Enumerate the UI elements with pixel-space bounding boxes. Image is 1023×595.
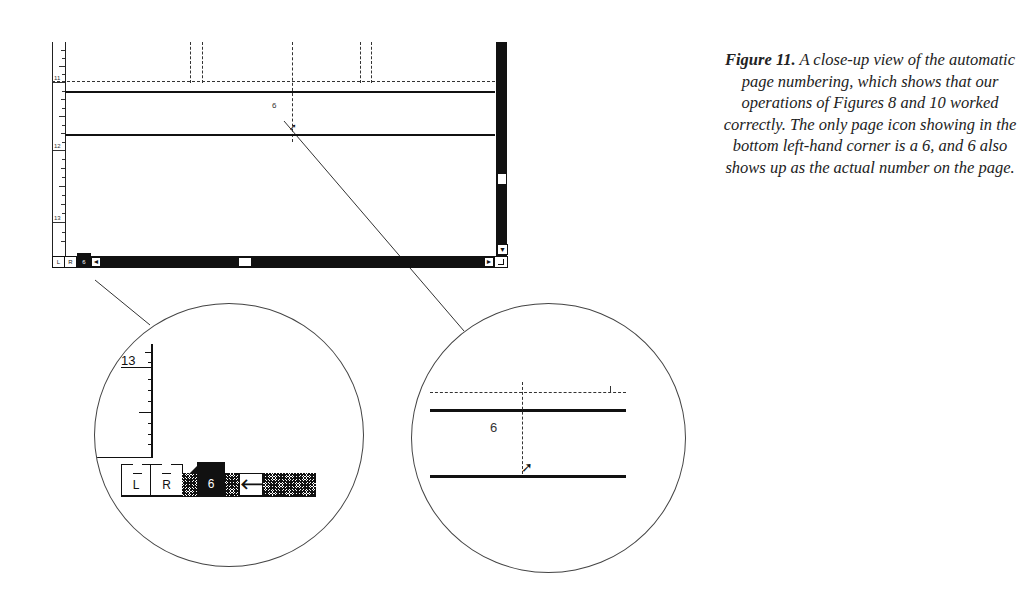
ruler-label-13-magnified: 13	[121, 354, 153, 368]
ruler-label-12: 12	[54, 143, 61, 149]
document-window: 11 12 13 6 ➚	[52, 42, 508, 268]
header-rule-top	[65, 91, 495, 93]
bottom-bar: L R 6 ◄ ►	[52, 256, 508, 268]
vertical-scrollbar[interactable]: ▼	[496, 42, 507, 256]
vertical-scroll-thumb[interactable]	[498, 174, 506, 184]
scroll-left-arrow-icon[interactable]: ◄	[91, 257, 101, 267]
magnifier-page-icons: 13 L R 6 🡐	[94, 303, 364, 567]
margin-guide	[52, 81, 495, 82]
column-guide	[190, 42, 191, 83]
header-rule-top-magnified	[430, 409, 626, 412]
header-rule-bottom	[65, 134, 495, 136]
figure-label: Figure 11.	[725, 50, 796, 69]
vertical-ruler: 11 12 13	[52, 42, 66, 256]
page-number-magnified: 6	[490, 420, 497, 435]
left-arrow-icon-magnified: 🡐	[239, 473, 263, 496]
left-master-page-icon[interactable]: L	[53, 257, 65, 267]
right-master-page-icon[interactable]: R	[65, 257, 77, 267]
header-rule-bottom-magnified	[430, 475, 626, 478]
left-master-page-icon-magnified: L	[121, 464, 151, 496]
page-6-icon[interactable]: 6	[77, 253, 91, 267]
scroll-down-arrow-icon[interactable]: ▼	[497, 244, 508, 255]
ruler-label-13: 13	[54, 215, 61, 221]
column-guide	[360, 42, 361, 83]
scroll-right-arrow-icon[interactable]: ►	[484, 257, 494, 267]
mouse-cursor-icon: ➚	[289, 122, 297, 132]
dither-pattern	[263, 473, 316, 496]
horizontal-scroll-thumb[interactable]	[239, 258, 251, 266]
page-fold-icon	[189, 466, 197, 474]
margin-guide-magnified	[430, 392, 626, 393]
magnifier-page-number: 6 ➚	[411, 303, 686, 573]
page-6-icon-magnified: 6	[197, 462, 225, 496]
page-icon-bar-magnified: L R 6 🡐	[121, 464, 316, 497]
resize-grow-box-icon[interactable]	[494, 257, 507, 267]
figure-caption: Figure 11. A close-up view of the automa…	[723, 49, 1017, 178]
column-guide	[202, 42, 203, 83]
page-number: 6	[272, 101, 276, 110]
column-guide	[371, 42, 372, 83]
horizontal-scrollbar[interactable]: ◄ ►	[91, 257, 494, 267]
page-area[interactable]: 6 ➚	[65, 42, 495, 256]
column-guide-magnified	[610, 386, 611, 392]
dither-pattern	[182, 473, 197, 496]
dither-pattern	[225, 473, 239, 496]
right-master-page-icon-magnified: R	[150, 464, 183, 496]
mouse-cursor-icon-magnified: ➚	[521, 459, 533, 475]
vertical-ruler-magnified	[151, 344, 153, 457]
